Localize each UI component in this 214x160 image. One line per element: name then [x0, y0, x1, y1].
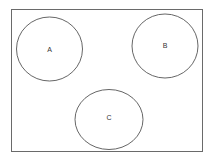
frame-rectangle [12, 10, 203, 152]
circle-a-label: A [47, 46, 52, 53]
circle-c: C [75, 90, 143, 150]
circle-b-label: B [163, 42, 168, 49]
diagram-canvas: A B C [0, 0, 214, 160]
circle-c-label: C [106, 114, 111, 121]
circle-b: B [132, 14, 198, 78]
circle-a: A [17, 17, 83, 81]
